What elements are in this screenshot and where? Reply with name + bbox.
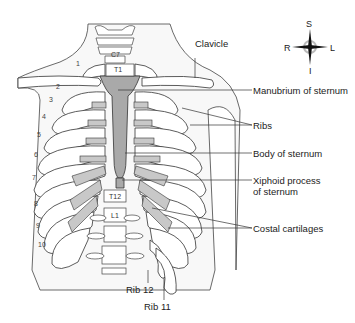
rib-number-7: 7 xyxy=(32,174,36,182)
rib-number-9: 9 xyxy=(36,222,40,230)
compass-superior: S xyxy=(306,19,312,29)
compass-rose-icon xyxy=(292,29,328,65)
thoracic-cage-illustration xyxy=(0,0,355,323)
rib-number-4: 4 xyxy=(42,113,46,121)
rib-number-5: 5 xyxy=(37,131,41,139)
rib-number-10: 10 xyxy=(38,241,46,249)
label-ribs: Ribs xyxy=(253,120,272,131)
vertebra-t12: T12 xyxy=(109,193,121,201)
label-manubrium: Manubrium of sternum xyxy=(253,85,348,96)
label-body-of-sternum: Body of sternum xyxy=(253,148,322,159)
rib-number-1: 1 xyxy=(76,60,80,68)
rib-number-6: 6 xyxy=(34,151,38,159)
rib-number-2: 2 xyxy=(56,83,60,91)
rib-number-8: 8 xyxy=(34,200,38,208)
label-rib11: Rib 11 xyxy=(144,301,171,312)
rib-number-3: 3 xyxy=(49,96,53,104)
label-xiphoid-line1: Xiphoid process xyxy=(253,175,321,186)
label-rib12: Rib 12 xyxy=(126,284,153,295)
compass-left: L xyxy=(330,43,335,53)
label-costal-cartilages: Costal cartilages xyxy=(253,223,323,234)
vertebra-l1: L1 xyxy=(111,212,119,220)
compass-right: R xyxy=(284,43,291,53)
compass-inferior: I xyxy=(309,66,312,76)
label-xiphoid-line2: of sternum xyxy=(253,186,298,197)
vertebra-t1: T1 xyxy=(114,66,122,74)
vertebra-c7: C7 xyxy=(111,51,120,59)
label-clavicle: Clavicle xyxy=(195,38,228,49)
